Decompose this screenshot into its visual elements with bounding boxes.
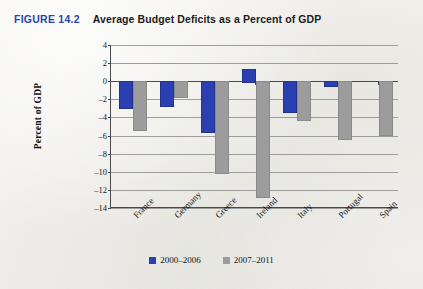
- category-group: Italy: [275, 45, 316, 207]
- bar-pair: [111, 45, 152, 207]
- bar-portugal-2000-2006: [324, 81, 338, 87]
- bar-germany-2007-2011: [174, 81, 188, 97]
- bar-pair: [275, 45, 316, 207]
- legend-label: 2007–2011: [234, 255, 274, 265]
- y-tick-label: –14: [94, 203, 107, 213]
- y-tick-label: –12: [94, 185, 107, 195]
- bar-pair: [316, 45, 357, 207]
- chart-legend: 2000–20062007–2011: [0, 255, 423, 265]
- legend-swatch-icon: [223, 257, 230, 264]
- plot-area: 420–2–4–6–8–10–12–14 FranceGermanyGreece…: [110, 45, 398, 208]
- y-tick-label: –2: [99, 94, 108, 104]
- legend-item[interactable]: 2000–2006: [149, 255, 201, 265]
- category-group: Spain: [357, 45, 398, 207]
- figure-number: FIGURE 14.2: [14, 13, 80, 25]
- y-tick-label: 0: [103, 76, 107, 86]
- figure-header: FIGURE 14.2Average Budget Deficits as a …: [14, 9, 415, 27]
- y-tick-label: 2: [103, 58, 107, 68]
- bar-ireland-2007-2011: [256, 81, 270, 198]
- category-group: Greece: [193, 45, 234, 207]
- y-tick-label: 4: [103, 40, 107, 50]
- bar-greece-2007-2011: [215, 81, 229, 174]
- bar-germany-2000-2006: [160, 81, 174, 107]
- y-tick-label: –8: [99, 149, 108, 159]
- cut-off-caption: [8, 283, 415, 289]
- legend-label: 2000–2006: [160, 255, 201, 265]
- bar-ireland-2000-2006: [242, 69, 256, 84]
- chart-container: Percent of GDP 420–2–4–6–8–10–12–14 Fran…: [0, 33, 423, 265]
- bar-pair: [152, 45, 193, 207]
- bar-pair: [234, 45, 275, 207]
- legend-item[interactable]: 2007–2011: [223, 255, 274, 265]
- category-group: Germany: [152, 45, 193, 207]
- category-slots: FranceGermanyGreeceIrelandItalyPortugalS…: [111, 45, 398, 207]
- bar-greece-2000-2006: [201, 81, 215, 133]
- y-tick-label: –4: [99, 112, 108, 122]
- bar-france-2007-2011: [133, 81, 147, 131]
- y-tick-mark: [108, 208, 112, 209]
- legend-swatch-icon: [149, 257, 156, 264]
- category-group: Ireland: [234, 45, 275, 207]
- bar-pair: [193, 45, 234, 207]
- y-tick-label: –10: [94, 167, 107, 177]
- bar-portugal-2007-2011: [338, 81, 352, 140]
- bar-france-2000-2006: [119, 81, 133, 109]
- figure-title: Average Budget Deficits as a Percent of …: [93, 13, 322, 25]
- y-axis-title: Percent of GDP: [33, 56, 43, 176]
- bar-spain-2007-2011: [379, 81, 393, 136]
- bar-pair: [357, 45, 398, 207]
- category-group: Portugal: [316, 45, 357, 207]
- bar-italy-2000-2006: [283, 81, 297, 113]
- bar-italy-2007-2011: [297, 81, 311, 121]
- category-group: France: [111, 45, 152, 207]
- y-tick-label: –6: [99, 131, 108, 141]
